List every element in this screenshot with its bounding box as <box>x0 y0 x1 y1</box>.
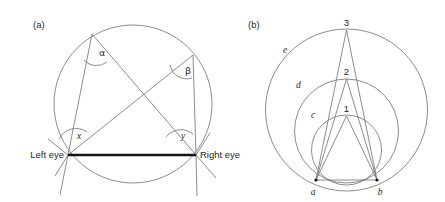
figure-container: (a) α β x <box>0 0 445 202</box>
leg-a-to-apex-3 <box>316 30 347 180</box>
panel-a-circle <box>54 25 212 183</box>
circle-label-c: c <box>311 110 316 120</box>
panel-a: (a) α β x <box>30 19 240 196</box>
circle-label-e: e <box>283 45 287 55</box>
base-label-a: a <box>311 187 316 197</box>
angle-label-alpha: α <box>99 47 105 58</box>
angle-arc-alpha <box>84 60 107 66</box>
chord-beta-to-left-eye <box>68 55 193 155</box>
panel-a-label: (a) <box>33 19 45 30</box>
apex-label-3: 3 <box>344 17 349 28</box>
vertex-dot-a <box>314 178 317 181</box>
circle-d <box>295 79 399 183</box>
vertex-dot-b <box>375 178 378 181</box>
chord-beta-to-right-eye <box>193 55 196 155</box>
apex-label-1: 1 <box>344 103 349 114</box>
angle-label-y: y <box>180 131 186 141</box>
panel-b: (b) c d e 1 2 3 <box>248 17 428 197</box>
leg-a-to-apex-2 <box>316 79 347 180</box>
angle-label-x: x <box>76 131 82 141</box>
angle-label-beta: β <box>185 65 191 76</box>
right-eye-label: Right eye <box>200 149 240 160</box>
circle-label-d: d <box>296 80 301 90</box>
leg-a-to-apex-1 <box>316 116 347 180</box>
leg-b-to-apex-1 <box>347 116 378 180</box>
apex-label-2: 2 <box>344 66 349 77</box>
leg-b-to-apex-2 <box>347 79 378 180</box>
left-eye-label: Left eye <box>30 149 64 160</box>
tail-beta-right-extension <box>196 155 197 196</box>
base-label-b: b <box>378 187 383 197</box>
figure-svg: (a) α β x <box>0 0 445 202</box>
leg-b-to-apex-3 <box>347 30 378 180</box>
panel-b-label: (b) <box>248 19 260 30</box>
